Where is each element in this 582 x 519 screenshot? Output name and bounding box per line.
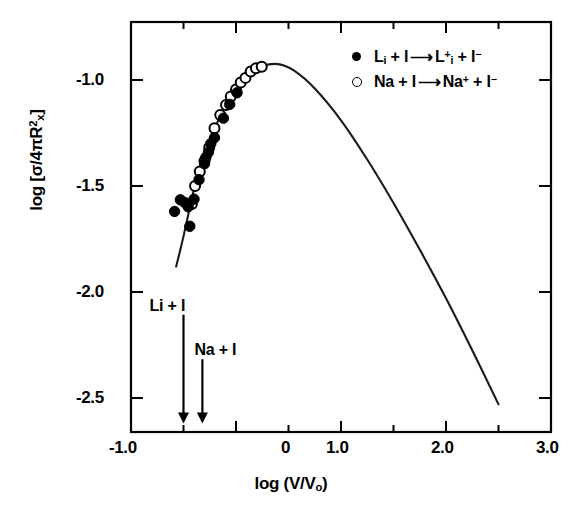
li-reactant: L — [374, 48, 384, 65]
li-plus-2: + I — [458, 48, 476, 65]
xtick-label-3: 1.0 — [326, 438, 348, 458]
x-axis-title: log (V/Vo) — [255, 474, 328, 493]
li-plus-1: + I — [391, 48, 409, 65]
na-reactant: Na — [374, 73, 394, 90]
na-product: Na — [443, 73, 463, 90]
legend-marker-filled-circle-icon — [352, 52, 374, 61]
li-product-sub: i — [451, 54, 454, 66]
ytick-label-1: -1.0 — [76, 70, 104, 90]
ylabel-pre: log [ — [27, 176, 46, 210]
sigma-symbol: σ — [27, 165, 46, 176]
ylabel-sup: 2 — [27, 121, 39, 127]
x-axis-title-wrapper: log (V/Vo) — [0, 474, 582, 494]
na-iodide-sup: − — [491, 73, 497, 85]
ytick-label-4: -2.5 — [76, 388, 104, 408]
na-plus-2: + I — [473, 73, 491, 90]
annotation-label-na: Na + I — [194, 341, 236, 359]
na-product-sup: + — [463, 73, 469, 85]
legend-row-na: Na + I⟶Na+ + I− — [352, 69, 497, 94]
data-series-li — [169, 88, 242, 232]
figure-container: -1.0 0 1.0 2.0 3.0 -1.0 -1.5 -2.0 -2.5 l… — [0, 0, 582, 519]
y-axis-title: log [σ/4πR2x] — [27, 109, 46, 210]
ylabel-r: R — [27, 127, 46, 139]
li-reactant-sub: i — [384, 54, 387, 66]
ytick-label-2: -1.5 — [76, 176, 104, 196]
xtick-label-2: 0 — [281, 438, 290, 458]
legend-row-li: Li + I⟶L+i + I− — [352, 44, 497, 69]
legend-label-li: Li + I⟶L+i + I− — [374, 47, 481, 66]
annotation-label-li: Li + I — [150, 297, 186, 315]
ylabel-post: ] — [27, 109, 46, 114]
data-series-na — [187, 62, 267, 209]
ylabel-mid: /4 — [27, 151, 46, 165]
legend-marker-open-circle-icon — [352, 77, 374, 87]
xtick-label-4: 2.0 — [431, 438, 453, 458]
pi-symbol: π — [27, 139, 46, 152]
ylabel-sub: x — [34, 115, 46, 121]
ytick-label-3: -2.0 — [76, 282, 104, 302]
reaction-arrow-icon: ⟶ — [416, 72, 443, 91]
legend: Li + I⟶L+i + I− Na + I⟶Na+ + I− — [352, 44, 497, 94]
legend-label-na: Na + I⟶Na+ + I− — [374, 72, 497, 91]
li-iodide-sup: − — [475, 47, 481, 59]
xlabel-pre: log (V/V — [255, 474, 316, 493]
na-plus-1: + I — [398, 73, 416, 90]
xtick-label-1: -1.0 — [109, 438, 137, 458]
annotation-arrows — [178, 315, 208, 424]
xtick-label-5: 3.0 — [536, 438, 558, 458]
li-product: L — [435, 48, 445, 65]
reaction-arrow-icon: ⟶ — [408, 47, 435, 66]
xlabel-post: ) — [322, 474, 327, 493]
y-axis-title-wrapper: log [σ/4πR2x] — [27, 35, 47, 285]
